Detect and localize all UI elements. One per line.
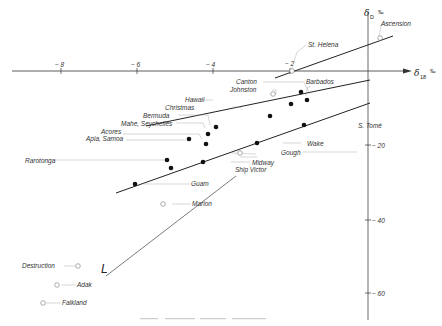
isotope-scatter-chart: − 8 − 6 − 4 − 2 δ 18 ‰ − 20 − 40 − 60 δ … <box>0 0 442 326</box>
point-marion <box>161 202 166 207</box>
point-barbados <box>305 98 310 103</box>
y-axis-subscript: D <box>370 14 374 20</box>
x-tick-label: − 4 <box>206 61 216 68</box>
point-acores <box>187 137 192 142</box>
label-st-helena: St. Helena <box>308 41 339 48</box>
point-bermuda <box>206 132 211 137</box>
x-axis-unit: ‰ <box>430 68 436 74</box>
label-canton: Canton <box>236 78 257 85</box>
label-wake: Wake <box>307 140 324 147</box>
point-destruction <box>76 264 81 269</box>
label-mahe-seychelles: Mahe, Seychelles <box>121 120 173 128</box>
point-s-tome <box>302 123 307 128</box>
point-ascension <box>378 36 383 41</box>
point-canton <box>299 90 304 95</box>
filled-points <box>133 90 310 187</box>
point-apia-samoa <box>204 142 209 147</box>
x-axis-title: δ <box>414 68 419 78</box>
point-johnston <box>289 102 294 107</box>
label-rarotonga: Rarotonga <box>25 157 56 165</box>
leader-lines <box>46 22 392 303</box>
point-rarotonga <box>165 158 170 163</box>
point-midway <box>201 160 206 165</box>
label-apia-samoa: Apia, Samoa <box>85 135 124 143</box>
point-st-helena <box>290 69 295 74</box>
label-ship-victor: Ship Victor <box>235 166 267 174</box>
line-l-label: L <box>101 262 108 276</box>
y-axis-unit: ‰ <box>378 9 384 15</box>
y-axis-title: δ <box>364 8 369 18</box>
open-points <box>41 36 383 306</box>
y-tick-label: − 60 <box>372 290 385 297</box>
x-axis-subscript: 18 <box>420 74 426 80</box>
faint-caption <box>140 318 266 319</box>
label-destruction: Destruction <box>22 262 55 269</box>
y-tick-label: − 40 <box>372 217 385 224</box>
label-adak: Adak <box>76 281 93 288</box>
point-johnston-open <box>271 92 276 97</box>
regression-lines <box>106 36 393 276</box>
label-falkland: Falkland <box>62 299 87 306</box>
label-guam: Guam <box>191 180 209 187</box>
label-christmas: Christmas <box>165 104 195 111</box>
point-wake <box>255 141 260 146</box>
label-barbados: Barbados <box>306 78 335 85</box>
point-ship-victor <box>169 166 174 171</box>
point-guam <box>133 182 138 187</box>
label-bermuda: Bermuda <box>143 112 170 119</box>
x-axis: − 8 − 6 − 4 − 2 δ 18 ‰ <box>12 60 436 80</box>
middle-line <box>146 80 370 126</box>
x-tick-label: − 8 <box>55 61 65 68</box>
y-axis: − 20 − 40 − 60 δ D ‰ <box>364 8 385 320</box>
x-axis-arrow-icon <box>403 69 412 74</box>
y-tick-label: − 20 <box>372 142 385 149</box>
line-l <box>106 176 236 276</box>
label-acores: Acores <box>100 128 122 135</box>
label-marion: Marion <box>192 200 212 207</box>
point-christmas <box>214 125 219 130</box>
label-ascension: Ascension <box>380 20 411 27</box>
point-hawaii <box>268 114 273 119</box>
point-adak <box>55 283 60 288</box>
x-tick-label: − 6 <box>131 61 141 68</box>
point-gough <box>238 151 243 156</box>
point-falkland <box>41 301 46 306</box>
label-gough: Gough <box>281 149 301 157</box>
station-labels: Ascension St. Helena Canton Barbados Joh… <box>22 20 411 306</box>
label-s-tome: S. Tomé <box>358 122 382 129</box>
label-hawaii: Hawaii <box>185 96 205 103</box>
label-johnston: Johnston <box>229 86 257 93</box>
